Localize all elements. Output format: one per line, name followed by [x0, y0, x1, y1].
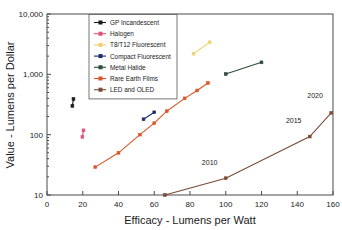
chart-canvas: 020406080100120140160 101001,00010,000 2…	[0, 0, 342, 230]
y-axis-tick-labels: 101001,00010,000	[19, 10, 44, 200]
y-tick-label: 10	[34, 191, 43, 200]
chart-figure: 020406080100120140160 101001,00010,000 2…	[0, 0, 342, 230]
data-point	[330, 111, 333, 114]
data-point	[183, 97, 186, 100]
y-tick-label: 1,000	[23, 70, 44, 79]
legend-item-label: T8/T12 Fluorescent	[110, 41, 166, 48]
data-point	[308, 135, 311, 138]
x-tick-label: 160	[326, 200, 340, 209]
data-point	[81, 135, 84, 138]
legend-swatch-marker	[99, 66, 102, 69]
legend-item-label: Rare Earth Films	[110, 75, 158, 82]
data-point	[71, 104, 74, 107]
series-led-and-oled	[164, 111, 333, 196]
chart-legend: GP IncandescentHalogenT8/T12 Fluorescent…	[89, 15, 177, 99]
data-point	[117, 151, 120, 154]
series-line	[226, 62, 262, 74]
x-tick-label: 140	[291, 200, 305, 209]
year-annotation: 2015	[286, 117, 302, 124]
series-metal-halide	[224, 61, 263, 76]
y-axis-ticks	[47, 14, 51, 195]
y-tick-label: 10,000	[19, 10, 44, 19]
chart-annotations: 201020152020	[202, 92, 323, 166]
legend-swatch-marker	[99, 21, 102, 24]
series-halogen	[81, 129, 85, 138]
legend-swatch-marker	[99, 77, 102, 80]
legend-swatch-marker	[99, 43, 102, 46]
x-tick-label: 100	[219, 200, 233, 209]
year-annotation: 2010	[202, 159, 218, 166]
data-point	[153, 111, 156, 114]
x-axis-ticks	[47, 191, 333, 195]
x-tick-label: 40	[114, 200, 123, 209]
legend-item-label: Compact Fluorescent	[110, 53, 171, 61]
data-point	[208, 41, 211, 44]
data-point	[260, 61, 263, 64]
year-annotation: 2020	[307, 92, 323, 99]
x-axis-tick-labels: 020406080100120140160	[45, 200, 340, 209]
legend-item-label: Metal Halide	[110, 64, 146, 71]
x-tick-label: 120	[255, 200, 269, 209]
x-tick-label: 80	[186, 200, 195, 209]
data-point	[165, 110, 168, 113]
y-axis-title: Value - Lumens per Dollar	[4, 41, 16, 168]
data-point	[142, 118, 145, 121]
y-tick-label: 100	[30, 131, 44, 140]
data-point	[192, 52, 195, 55]
x-tick-label: 60	[150, 200, 159, 209]
series-t8-t12-fluorescent	[192, 41, 211, 55]
data-point	[82, 129, 85, 132]
series-line	[194, 42, 210, 53]
data-point	[94, 166, 97, 169]
data-point	[139, 133, 142, 136]
data-point	[206, 82, 209, 85]
legend-item-label: LED and OLED	[110, 86, 154, 93]
data-point	[196, 89, 199, 92]
series-compact-fluorescent	[142, 111, 156, 121]
legend-item-label: GP Incandescent	[110, 19, 159, 26]
data-point	[72, 98, 75, 101]
x-tick-label: 0	[45, 200, 50, 209]
legend-item-label: Halogen	[110, 30, 134, 38]
data-point	[224, 73, 227, 76]
legend-swatch-marker	[99, 32, 102, 35]
data-point	[224, 177, 227, 180]
data-point	[164, 194, 167, 197]
x-axis-title: Efficacy - Lumens per Watt	[124, 214, 255, 226]
series-line	[165, 113, 331, 195]
legend-swatch-marker	[99, 88, 102, 91]
series-gp-incandescent	[71, 98, 75, 108]
data-point	[153, 122, 156, 125]
legend-swatch-marker	[99, 55, 102, 58]
x-tick-label: 20	[78, 200, 87, 209]
